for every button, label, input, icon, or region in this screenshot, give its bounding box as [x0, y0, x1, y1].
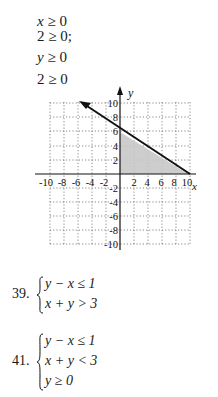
x-tick: -8	[58, 177, 67, 188]
inequality-line: y − x ≤ 1	[45, 276, 96, 292]
inequality-line: x + y < 3	[45, 353, 97, 369]
x-tick: 10	[182, 177, 193, 188]
shaded-region	[120, 132, 188, 174]
y-axis-arrow-icon	[117, 86, 123, 95]
y-tick: 4	[113, 141, 119, 152]
y-tick: -10	[104, 239, 118, 250]
problem-number: 41.	[12, 353, 30, 369]
x-tick: 2	[131, 177, 136, 188]
inequality-graph: y x -10 -8 -6 -4 -2 2 4 6 8 10 10 8 6 4 …	[0, 0, 218, 270]
y-axis-label: y	[127, 86, 134, 100]
problem-39: 39. y − x ≤ 1 x + y > 3	[0, 276, 218, 316]
y-tick: -6	[109, 211, 118, 222]
brace-icon	[36, 333, 44, 391]
x-tick: -6	[72, 177, 81, 188]
problem-41: 41. y − x ≤ 1 x + y < 3 y ≥ 0	[0, 333, 218, 393]
y-tick: 8	[113, 112, 118, 123]
x-tick: -2	[100, 177, 109, 188]
inequality-line: y − x ≤ 1	[45, 333, 96, 349]
x-tick: 8	[171, 177, 176, 188]
y-tick: 6	[113, 126, 118, 137]
x-tick: 4	[144, 177, 150, 188]
x-tick: -10	[39, 177, 53, 188]
y-tick: -8	[109, 225, 118, 236]
x-tick: 6	[158, 177, 163, 188]
y-tick: 2	[113, 155, 118, 166]
y-tick: -4	[109, 197, 118, 208]
inequality-line: x + y > 3	[45, 296, 97, 312]
y-tick: 10	[108, 98, 119, 109]
problem-number: 39.	[12, 286, 30, 302]
x-tick: -4	[86, 177, 95, 188]
inequality-line: y ≥ 0	[45, 373, 73, 389]
y-tick: -2	[109, 183, 118, 194]
brace-icon	[36, 276, 44, 314]
